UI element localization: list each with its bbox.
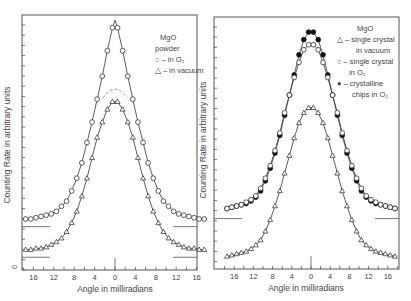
open-circle-marker [176, 212, 181, 217]
x-tick-label: 4 [133, 273, 137, 282]
open-circle-marker [156, 189, 161, 194]
open-circle-marker [187, 214, 192, 219]
open-circle-marker [181, 213, 186, 218]
open-triangle-marker [90, 155, 95, 159]
filled-circle-marker [321, 52, 326, 57]
open-triangle-marker [268, 217, 273, 221]
right-legend: MgO △ – single crystal in vacuum ○ – sin… [337, 24, 395, 99]
x-tick-label: 8 [72, 273, 76, 282]
x-tick-label: 12 [364, 272, 372, 281]
open-circle-marker [301, 47, 306, 52]
open-circle-marker [90, 120, 95, 125]
open-triangle-marker [49, 242, 54, 246]
x-tick-label: 12 [172, 273, 180, 282]
open-triangle-marker [273, 203, 278, 207]
open-triangle-marker [282, 171, 287, 175]
left-legend: MgO powder ○ – in O₂ △ – in vacuum [155, 33, 204, 75]
open-triangle-marker [171, 239, 176, 243]
left-legend-line: MgO [160, 33, 176, 42]
open-triangle-marker [277, 188, 282, 192]
left-x-tick-labels: 1612840481216 [29, 273, 201, 282]
open-circle-marker [161, 199, 166, 204]
series-line [227, 108, 395, 257]
open-triangle-marker [130, 135, 135, 139]
right-x-tick-labels: 1612840481216 [230, 272, 392, 281]
x-tick-label: 16 [29, 273, 37, 282]
open-circle-marker [268, 163, 273, 168]
open-circle-marker [110, 25, 115, 30]
open-circle-marker [166, 204, 171, 209]
left-x-axis-label: Angle in milliradians [77, 284, 153, 294]
open-triangle-marker [74, 209, 79, 213]
left-legend-line: powder [155, 44, 180, 53]
open-circle-marker [23, 217, 28, 222]
open-circle-marker [229, 205, 234, 210]
open-circle-marker [192, 215, 197, 220]
open-circle-marker [202, 217, 207, 222]
open-triangle-marker [69, 220, 74, 224]
open-triangle-marker [202, 247, 207, 251]
open-circle-marker [306, 42, 311, 47]
open-circle-marker [393, 206, 398, 211]
open-circle-marker [287, 93, 292, 98]
right-legend-line: △ – single crystal [337, 35, 395, 44]
open-circle-marker [321, 60, 326, 65]
open-circle-marker [282, 110, 287, 115]
open-triangle-marker [176, 242, 181, 246]
x-tick-label: 16 [384, 272, 392, 281]
x-tick-label: 8 [154, 273, 158, 282]
left-plot-frame [22, 15, 197, 270]
open-circle-marker [151, 176, 156, 181]
open-circle-marker [239, 202, 244, 207]
open-triangle-marker [340, 188, 345, 192]
open-triangle-marker [79, 193, 84, 197]
open-circle-marker [49, 212, 54, 217]
open-circle-marker [244, 200, 249, 205]
open-triangle-marker [64, 229, 69, 233]
open-triangle-marker [325, 135, 330, 139]
open-triangle-marker [297, 120, 302, 124]
open-triangle-marker [100, 120, 105, 124]
right-panel-mgo-crystal: Counting Rate in arbitrary units 1612840… [198, 17, 399, 293]
series-markers [23, 99, 207, 251]
open-triangle-marker [359, 237, 364, 241]
open-triangle-marker [156, 220, 161, 224]
open-triangle-marker [369, 246, 374, 250]
x-tick-label: 4 [93, 273, 97, 282]
figure: Counting Rate in arbitrary units 0 16128… [0, 0, 411, 301]
left-panel-mgo-powder: Counting Rate in arbitrary units 0 16128… [2, 15, 207, 294]
open-circle-marker [335, 110, 340, 115]
open-circle-marker [354, 176, 359, 181]
open-circle-marker [79, 161, 84, 166]
open-circle-marker [325, 75, 330, 80]
left-y-zero-label: 0 [11, 265, 18, 269]
open-triangle-marker [258, 237, 263, 241]
right-legend-line: ● – crystalline [337, 79, 383, 88]
open-circle-marker [64, 199, 69, 204]
x-tick-label: 4 [290, 272, 294, 281]
open-triangle-marker [249, 246, 254, 250]
open-circle-marker [171, 209, 176, 214]
open-circle-marker [359, 186, 364, 191]
open-triangle-marker [105, 107, 110, 111]
series-line [227, 45, 395, 209]
open-circle-marker [225, 206, 230, 211]
open-triangle-marker [354, 229, 359, 233]
open-circle-marker [120, 48, 125, 53]
x-tick-label: 4 [328, 272, 332, 281]
open-triangle-marker [84, 176, 89, 180]
open-circle-marker [330, 93, 335, 98]
left-baselines [22, 227, 197, 258]
open-triangle-marker [349, 217, 354, 221]
open-circle-marker [378, 202, 383, 207]
open-circle-marker [292, 75, 297, 80]
open-circle-marker [253, 194, 258, 199]
open-circle-marker [197, 217, 202, 222]
right-legend-line: in vacuum [356, 46, 390, 55]
open-circle-marker [136, 120, 141, 125]
left-legend-line: ○ – in O₂ [155, 55, 185, 64]
open-circle-marker [95, 97, 100, 102]
left-y-axis-label: Counting Rate in arbitrary units [2, 86, 12, 203]
right-legend-line: chips in O₂ [352, 90, 388, 99]
open-circle-marker [146, 161, 151, 166]
